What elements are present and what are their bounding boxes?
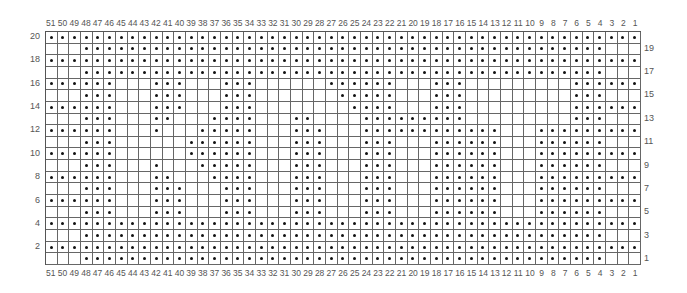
stitch-cell-dot [163, 90, 175, 102]
stitch-cell [151, 148, 163, 160]
stitch-cell-dot [489, 32, 501, 44]
stitch-cell-dot [349, 44, 361, 56]
stitch-cell-dot [186, 32, 198, 44]
stitch-cell-dot [151, 90, 163, 102]
stitch-cell [501, 125, 513, 137]
stitch-cell-dot [221, 183, 233, 195]
stitch-cell-dot [594, 102, 606, 114]
stitch-cell-dot [233, 160, 245, 172]
stitch-cell-dot [303, 67, 315, 79]
stitch-cell-dot [151, 253, 163, 265]
stitch-cell-dot [128, 242, 140, 254]
stitch-cell-dot [139, 32, 151, 44]
stitch-cell-dot [81, 90, 93, 102]
stitch-cell [69, 90, 81, 102]
stitch-cell-dot [594, 125, 606, 137]
stitch-cell-dot [104, 90, 116, 102]
column-label: 32 [267, 268, 279, 278]
stitch-cell-dot [536, 160, 548, 172]
stitch-cell-dot [244, 125, 256, 137]
stitch-cell [338, 207, 350, 219]
stitch-cell [618, 44, 630, 56]
column-label: 28 [314, 18, 326, 28]
stitch-cell-dot [174, 183, 186, 195]
stitch-cell-dot [594, 253, 606, 265]
stitch-cell-dot [151, 67, 163, 79]
column-label: 47 [92, 18, 104, 28]
stitch-cell-dot [139, 253, 151, 265]
stitch-cell-dot [559, 137, 571, 149]
stitch-cell-dot [104, 137, 116, 149]
stitch-cell [396, 148, 408, 160]
stitch-cell [268, 148, 280, 160]
stitch-cell [139, 183, 151, 195]
stitch-cell-dot [559, 242, 571, 254]
stitch-cell-dot [361, 67, 373, 79]
stitch-cell-dot [373, 114, 385, 126]
stitch-cell-dot [186, 218, 198, 230]
stitch-cell [46, 253, 58, 265]
column-label: 23 [372, 18, 384, 28]
stitch-cell-dot [594, 55, 606, 67]
column-label: 20 [407, 18, 419, 28]
stitch-cell-dot [81, 55, 93, 67]
stitch-cell-dot [69, 172, 81, 184]
stitch-cell-dot [443, 55, 455, 67]
column-label: 13 [489, 18, 501, 28]
stitch-cell-dot [174, 67, 186, 79]
column-label: 25 [349, 268, 361, 278]
column-label: 35 [232, 18, 244, 28]
stitch-cell-dot [419, 218, 431, 230]
stitch-cell [139, 90, 151, 102]
stitch-cell-dot [104, 67, 116, 79]
column-label: 45 [115, 268, 127, 278]
column-label: 37 [209, 268, 221, 278]
stitch-cell [139, 195, 151, 207]
stitch-cell-dot [104, 207, 116, 219]
stitch-cell-dot [128, 230, 140, 242]
stitch-cell [279, 114, 291, 126]
stitch-cell-dot [291, 55, 303, 67]
stitch-cell-dot [466, 195, 478, 207]
stitch-cell-dot [104, 114, 116, 126]
stitch-cell-dot [454, 102, 466, 114]
stitch-cell-dot [489, 67, 501, 79]
stitch-cell-dot [268, 242, 280, 254]
stitch-cell-dot [58, 55, 70, 67]
stitch-cell-dot [58, 102, 70, 114]
stitch-cell-dot [361, 195, 373, 207]
stitch-cell-dot [69, 242, 81, 254]
stitch-cell-dot [373, 137, 385, 149]
stitch-cell-dot [454, 79, 466, 91]
stitch-cell-dot [548, 160, 560, 172]
stitch-cell-dot [151, 32, 163, 44]
stitch-cell-dot [104, 253, 116, 265]
stitch-cell-dot [69, 79, 81, 91]
stitch-cell [139, 114, 151, 126]
stitch-cell-dot [128, 253, 140, 265]
column-label: 42 [150, 268, 162, 278]
stitch-cell-dot [291, 183, 303, 195]
stitch-cell-dot [361, 79, 373, 91]
stitch-cell [501, 137, 513, 149]
stitch-cell-dot [256, 44, 268, 56]
stitch-cell [629, 230, 641, 242]
stitch-cell-dot [163, 195, 175, 207]
stitch-cell-dot [548, 230, 560, 242]
stitch-cell-dot [93, 207, 105, 219]
stitch-cell-dot [58, 195, 70, 207]
stitch-cell-dot [384, 125, 396, 137]
stitch-cell [349, 160, 361, 172]
stitch-cell-dot [384, 90, 396, 102]
stitch-cell-dot [233, 195, 245, 207]
stitch-cell-dot [594, 90, 606, 102]
stitch-cell-dot [209, 137, 221, 149]
stitch-cell-dot [629, 242, 641, 254]
column-label: 51 [45, 18, 57, 28]
column-label: 8 [548, 18, 560, 28]
stitch-cell [513, 148, 525, 160]
stitch-cell-dot [583, 183, 595, 195]
stitch-cell-dot [501, 32, 513, 44]
stitch-cell-dot [431, 195, 443, 207]
stitch-cell-dot [81, 137, 93, 149]
